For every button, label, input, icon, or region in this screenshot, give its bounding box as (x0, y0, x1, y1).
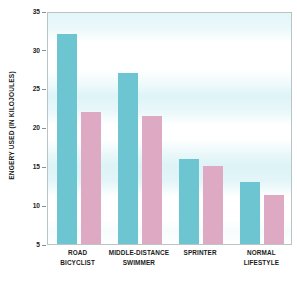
x-axis-label-line: BICYCLIST (47, 258, 108, 268)
y-axis-tick-label: 35 (33, 9, 42, 16)
y-axis-tick-mark (42, 89, 46, 90)
y-axis-tick-mark (42, 206, 46, 207)
y-axis-tick-mark (42, 245, 46, 246)
bar (179, 159, 199, 244)
y-axis-tick-label: 15 (33, 164, 42, 171)
x-axis-label-line: SWIMMER (108, 258, 169, 268)
x-axis-group-label: ROADBICYCLIST (47, 248, 108, 267)
y-axis-tick-mark (42, 50, 46, 51)
x-axis-group-label: MIDDLE-DISTANCESWIMMER (108, 248, 169, 267)
bar (264, 195, 284, 244)
bar-chart: ENGERY USED (IN KILOJOULES) 353025201510… (0, 0, 297, 285)
bars-layer (48, 13, 291, 244)
y-axis-tick-label: 30 (33, 48, 42, 55)
x-axis-label-line: SPRINTER (184, 249, 217, 256)
y-axis-tick-mark (42, 128, 46, 129)
x-axis-group-label: NORMALLIFESTYLE (231, 248, 292, 267)
x-axis-label-line: NORMAL (247, 249, 276, 256)
y-axis-tick-mark (42, 12, 46, 13)
bar (81, 112, 101, 244)
y-axis-title-text: ENGERY USED (IN KILOJOULES) (8, 71, 15, 179)
x-axis-group-label: SPRINTER (170, 248, 231, 258)
y-axis-tick-label: 10 (33, 203, 42, 210)
x-axis-label-line: MIDDLE-DISTANCE (109, 249, 169, 256)
bar (240, 182, 260, 244)
x-axis-label-line: ROAD (68, 249, 87, 256)
bar (57, 34, 77, 244)
y-axis-tick-label: 20 (33, 125, 42, 132)
x-axis-label-line: LIFESTYLE (231, 258, 292, 268)
y-axis-tick-mark (42, 167, 46, 168)
bar (203, 166, 223, 244)
y-axis-tick-label: 25 (33, 86, 42, 93)
x-axis: ROADBICYCLISTMIDDLE-DISTANCESWIMMERSPRIN… (47, 248, 292, 282)
plot-area (47, 12, 292, 245)
bar (142, 116, 162, 244)
y-axis-title: ENGERY USED (IN KILOJOULES) (0, 0, 22, 250)
y-axis: 3530252015105 (20, 12, 46, 245)
bar (118, 73, 138, 244)
